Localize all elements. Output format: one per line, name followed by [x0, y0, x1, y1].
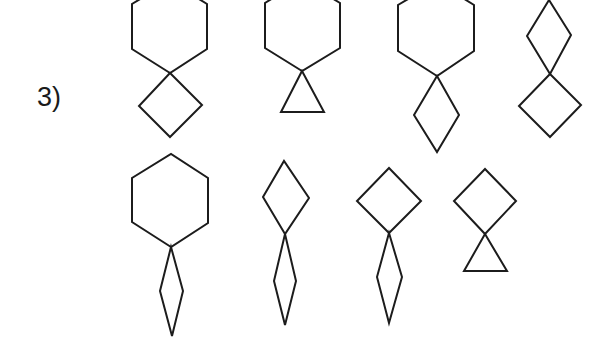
narrow-rhombus-shape	[160, 247, 183, 336]
figure-7-square-narrow-rhombus	[357, 168, 421, 323]
figure-4-rhombus-square	[519, 0, 581, 137]
rhombus-shape	[527, 0, 571, 74]
triangle-shape	[281, 71, 324, 112]
square-shape	[454, 169, 516, 234]
hexagon-shape	[398, 0, 474, 76]
figure-6-rhombus-narrow-rhombus	[263, 161, 309, 325]
square-shape	[357, 168, 421, 233]
figure-1-hexagon-square	[132, 0, 207, 137]
figure-sequence-canvas	[0, 0, 609, 354]
square-shape	[139, 73, 202, 137]
narrow-rhombus-shape	[274, 234, 296, 325]
figure-2-hexagon-triangle	[265, 0, 340, 112]
narrow-rhombus-shape	[377, 233, 402, 323]
triangle-shape	[464, 234, 507, 271]
rhombus-shape	[263, 161, 309, 234]
figure-5-hexagon-narrow-rhombus	[132, 154, 208, 336]
figure-8-square-triangle	[454, 169, 516, 271]
hexagon-shape	[132, 154, 208, 247]
rhombus-shape	[414, 76, 459, 152]
hexagon-shape	[132, 0, 207, 73]
hexagon-shape	[265, 0, 340, 71]
square-shape	[519, 74, 581, 137]
figure-3-hexagon-rhombus	[398, 0, 474, 152]
